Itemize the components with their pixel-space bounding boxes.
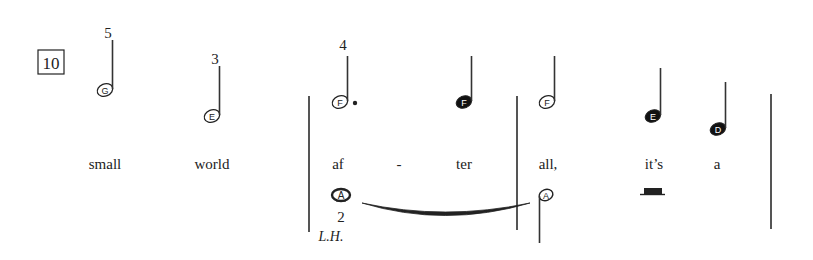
note-g: G5 xyxy=(95,25,114,99)
lyric-syllable: small xyxy=(89,156,122,172)
music-score: 10 G5E3F4FFED smallworldaf-terall,it’sa … xyxy=(0,0,813,260)
lyric-syllable: af xyxy=(332,156,344,172)
note-d: D xyxy=(708,82,727,138)
finger-number: 3 xyxy=(211,51,219,67)
note-f: F4 xyxy=(330,37,357,111)
lyric-syllable: ter xyxy=(456,156,472,172)
note-f: F xyxy=(537,56,556,111)
note-letter: E xyxy=(650,112,656,122)
note-e: E3 xyxy=(202,51,221,125)
tie xyxy=(362,203,530,216)
note-e: E xyxy=(643,68,662,125)
note-f: F xyxy=(454,56,473,111)
lower-whole-note: A 2 L.H. xyxy=(318,189,350,244)
lyric-syllable: all, xyxy=(539,156,558,172)
finger-number: 4 xyxy=(339,37,347,53)
upper-notes: G5E3F4FFED xyxy=(95,25,727,138)
lyric-syllable: a xyxy=(714,156,721,172)
half-rest xyxy=(640,188,665,195)
lyric-syllable: - xyxy=(397,156,402,172)
lyrics: smallworldaf-terall,it’sa xyxy=(89,156,721,172)
note-letter: E xyxy=(209,112,215,122)
finger-number: 5 xyxy=(104,25,112,41)
note-letter: F xyxy=(461,98,467,108)
left-hand-label: L.H. xyxy=(318,229,344,244)
dot xyxy=(353,101,357,105)
measure-number-text: 10 xyxy=(43,54,60,73)
lower-half-note: A xyxy=(538,187,555,243)
lyric-syllable: it’s xyxy=(645,156,664,172)
finger-number: 2 xyxy=(337,209,345,225)
lyric-syllable: world xyxy=(195,156,230,172)
note-letter: D xyxy=(715,125,722,135)
measure-number: 10 xyxy=(38,50,64,74)
note-letter: F xyxy=(337,98,343,108)
note-letter: A xyxy=(543,191,549,201)
note-letter: F xyxy=(544,98,550,108)
note-letter: A xyxy=(338,190,345,201)
note-letter: G xyxy=(101,86,108,96)
